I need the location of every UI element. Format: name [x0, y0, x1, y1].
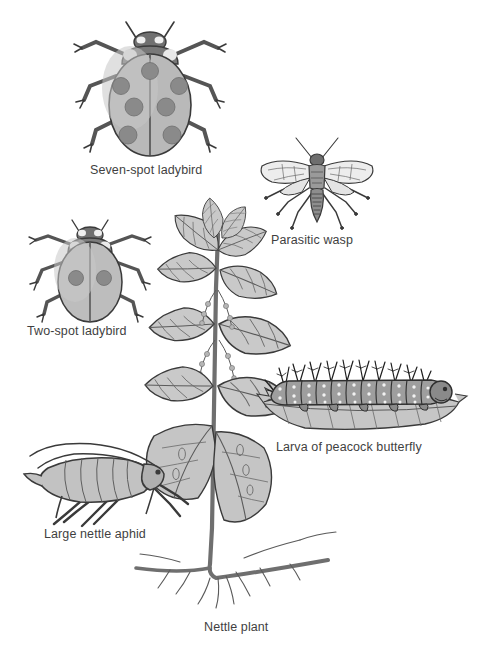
nettle-stem — [210, 234, 218, 564]
nettle-leaf-group-mid — [147, 302, 294, 359]
larva-peacock-butterfly-label: Larva of peacock butterfly — [276, 440, 422, 454]
larva-peacock-butterfly-illustration — [255, 358, 470, 443]
ladybird-spot — [119, 126, 137, 144]
ladybird-spot — [163, 126, 181, 144]
larva-body — [271, 380, 445, 405]
wasp-thorax — [309, 165, 325, 190]
ladybird-spot — [157, 98, 175, 116]
aphid-rostrum — [146, 488, 154, 514]
large-nettle-aphid-label: Large nettle aphid — [44, 527, 146, 541]
nettle-leaf-large-right — [214, 432, 272, 522]
larva-head — [430, 381, 452, 403]
ladybird-spot — [69, 271, 84, 286]
seven-spot-ladybird-label: Seven-spot ladybird — [90, 163, 202, 177]
nettle-roots — [136, 532, 336, 608]
two-spot-ladybird-illustration — [20, 212, 160, 327]
two-spot-ladybird-label: Two-spot ladybird — [27, 324, 127, 338]
ladybird-spot — [142, 63, 159, 80]
seven-spot-ladybird-illustration — [60, 8, 240, 168]
aphid-cauda — [24, 473, 42, 486]
aphid-abdomen — [40, 458, 151, 503]
wasp-abdomen — [311, 189, 324, 223]
large-nettle-aphid-illustration — [8, 430, 193, 530]
ladybird-spot — [171, 78, 188, 95]
aphid-eye — [155, 469, 160, 474]
ladybird-spot — [113, 78, 130, 95]
ladybird-spot — [97, 271, 112, 286]
parasitic-wasp-illustration — [252, 136, 382, 236]
ladybird-spot — [125, 98, 143, 116]
nettle-plant-label: Nettle plant — [204, 620, 268, 634]
aphid-cornicle — [56, 496, 62, 518]
